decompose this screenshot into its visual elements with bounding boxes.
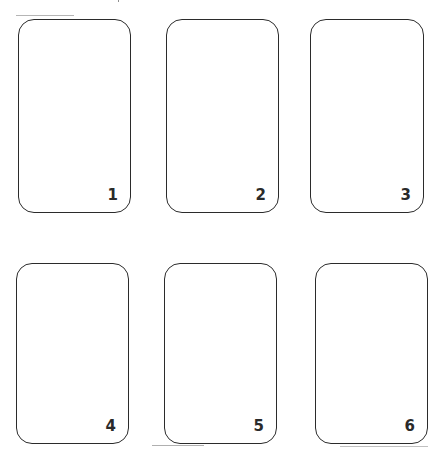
card-number: 3 <box>401 188 411 203</box>
printed-page: 1 2 3 4 5 6 <box>0 0 441 462</box>
top-rule-line <box>16 15 74 16</box>
card-outline-4: 4 <box>16 263 129 444</box>
bottom-rule-line <box>340 446 428 447</box>
card-number: 1 <box>108 188 118 203</box>
card-outline-2: 2 <box>166 19 279 213</box>
card-outline-6: 6 <box>315 263 428 444</box>
bottom-rule-line <box>152 445 204 446</box>
card-number: 4 <box>106 419 116 434</box>
card-number: 2 <box>256 188 266 203</box>
cropped-title-fragment <box>118 0 125 2</box>
card-outline-5: 5 <box>164 263 277 444</box>
card-outline-3: 3 <box>310 19 424 213</box>
card-number: 6 <box>405 419 415 434</box>
card-number: 5 <box>254 419 264 434</box>
card-outline-1: 1 <box>18 19 131 213</box>
